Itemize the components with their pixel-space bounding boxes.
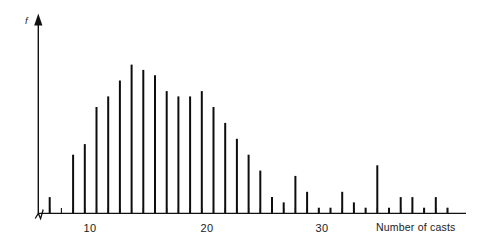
chart-figure: f 10 20 30 Number of casts	[0, 0, 478, 248]
x-tick-label-30: 30	[316, 222, 329, 234]
x-axis-label: Number of casts	[376, 221, 455, 233]
x-tick-label-10: 10	[84, 222, 97, 234]
chart-background	[0, 0, 478, 248]
x-tick-label-20: 20	[201, 222, 214, 234]
frequency-spike-chart: f 10 20 30 Number of casts	[0, 0, 478, 248]
